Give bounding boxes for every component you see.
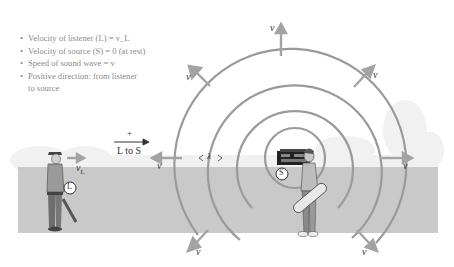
source-marker-label: S xyxy=(279,168,283,177)
legend-item-positive-direction-cont: to source xyxy=(20,82,145,95)
listener-velocity-label: vL xyxy=(76,162,85,176)
ground-band xyxy=(18,167,438,233)
legend-item-source-velocity: Velocity of source (S) = 0 (at rest) xyxy=(20,45,145,58)
direction-label: L to S xyxy=(117,145,141,156)
legend: Velocity of listener (L) = v_L Velocity … xyxy=(20,32,145,95)
legend-item-wave-speed: Speed of sound wave = v xyxy=(20,57,145,70)
legend-item-positive-direction: Positive direction: from listener xyxy=(20,70,145,83)
wave-speed-label-top: v xyxy=(270,22,274,33)
listener-marker-label: L xyxy=(67,182,72,191)
wave-speed-label-lower-left: v xyxy=(196,246,200,257)
wavelength-label: λ xyxy=(207,151,211,161)
wave-speed-label-upper-left: v xyxy=(186,71,190,82)
positive-sign-label: + xyxy=(127,128,132,138)
wave-speed-label-upper-right: v xyxy=(373,69,377,80)
doppler-diagram: Velocity of listener (L) = v_L Velocity … xyxy=(0,0,454,267)
listener-velocity-subscript: L xyxy=(80,168,84,176)
wave-speed-label-right: v xyxy=(403,160,407,171)
legend-item-listener-velocity: Velocity of listener (L) = v_L xyxy=(20,32,145,45)
wave-speed-label-lower-right: v xyxy=(362,246,366,257)
wave-speed-label-left: v xyxy=(157,160,161,171)
